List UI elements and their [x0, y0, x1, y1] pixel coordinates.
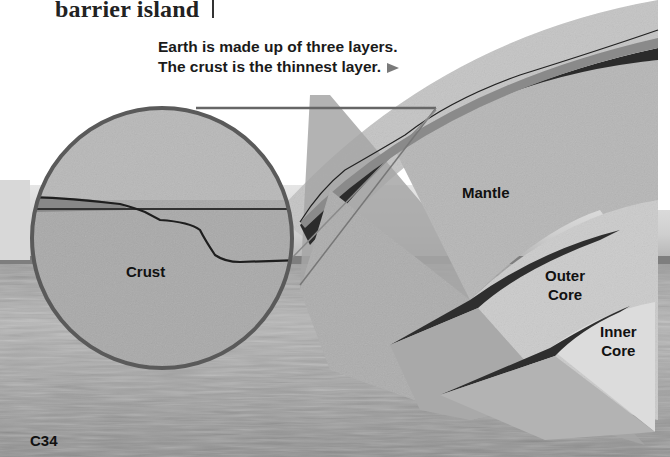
glossary-term: barrier island [55, 0, 199, 23]
textbook-page: barrier island Earth is made up of three… [0, 0, 670, 457]
label-crust: Crust [126, 262, 165, 281]
label-inner-core: Inner Core [600, 322, 637, 360]
page-number: C34 [30, 432, 58, 449]
caption-text: Earth is made up of three layers. The cr… [158, 38, 397, 75]
label-mantle: Mantle [462, 183, 510, 202]
right-triangle-icon [387, 63, 399, 73]
figure-caption: Earth is made up of three layers. The cr… [158, 37, 418, 77]
margin-divider [212, 0, 214, 18]
label-outer-core: Outer Core [545, 266, 585, 304]
